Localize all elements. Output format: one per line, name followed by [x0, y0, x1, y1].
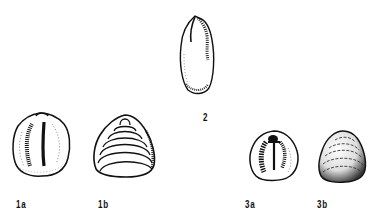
figure-2-shell [176, 14, 218, 96]
interior-shell-illustration [246, 128, 302, 184]
exterior-shell-illustration [92, 113, 158, 179]
figure-label-1a: 1a [16, 199, 27, 210]
figure-label-2: 2 [203, 112, 208, 123]
elongate-shell-illustration [176, 14, 218, 96]
figure-label-3b: 3b [317, 199, 328, 210]
interior-shell-illustration [10, 110, 72, 180]
figure-3a-shell [246, 128, 302, 184]
exterior-shell-illustration [313, 128, 369, 184]
figure-1a-shell [10, 110, 72, 180]
figure-3b-shell [313, 128, 369, 184]
figure-1b-shell [92, 113, 158, 179]
figure-label-3a: 3a [245, 199, 256, 210]
figure-label-1b: 1b [98, 199, 109, 210]
